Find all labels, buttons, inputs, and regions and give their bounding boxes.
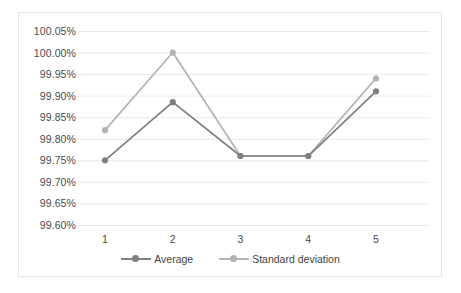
legend-item-average[interactable]: Average [121, 253, 193, 265]
x-axis-tick-label: 3 [238, 233, 244, 245]
legend-label: Average [151, 253, 193, 265]
legend-label: Standard deviation [249, 253, 340, 265]
x-axis-tick-label: 1 [102, 233, 108, 245]
x-axis-tick-labels: 12345 [0, 0, 461, 293]
x-axis-tick-label: 5 [373, 233, 379, 245]
legend-marker-icon [219, 254, 249, 264]
x-axis-tick-label: 2 [170, 233, 176, 245]
x-axis-tick-label: 4 [305, 233, 311, 245]
chart-legend: AverageStandard deviation [0, 253, 461, 265]
legend-item-standard-deviation[interactable]: Standard deviation [219, 253, 340, 265]
legend-dot-swatch [132, 255, 139, 262]
legend-marker-icon [121, 254, 151, 264]
legend-dot-swatch [230, 255, 237, 262]
